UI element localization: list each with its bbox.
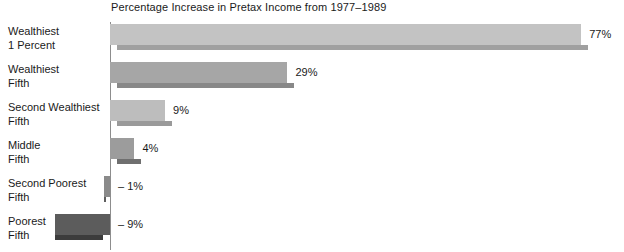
chart-bar-row: Second PoorestFifth– 1% <box>0 174 624 212</box>
plot-area: Wealthiest1 Percent77%WealthiestFifth29%… <box>0 20 624 252</box>
bar-shadow-face <box>117 159 141 164</box>
bar-fill <box>104 176 110 197</box>
bar-fill <box>110 100 165 121</box>
chart-bar[interactable] <box>110 62 287 88</box>
bar-chart: Percentage Increase in Pretax Income fro… <box>0 0 624 252</box>
bar-value-label: 29% <box>295 66 317 79</box>
category-label-line2: Fifth <box>8 77 106 91</box>
bar-shadow-face <box>55 235 103 240</box>
chart-bar-row: MiddleFifth4% <box>0 136 624 174</box>
bar-fill <box>110 138 134 159</box>
chart-bar-row: WealthiestFifth29% <box>0 60 624 98</box>
chart-bar[interactable] <box>55 214 110 240</box>
bar-value-label: – 9% <box>118 218 143 231</box>
bar-fill <box>55 214 110 235</box>
chart-bar[interactable] <box>110 24 581 50</box>
category-label: MiddleFifth <box>8 139 106 166</box>
category-label-line1: Middle <box>8 139 40 151</box>
chart-bar-row: Second WealthiestFifth9% <box>0 98 624 136</box>
bar-shadow-face <box>117 45 588 50</box>
chart-title: Percentage Increase in Pretax Income fro… <box>111 1 386 14</box>
bar-shadow-face <box>117 121 172 126</box>
category-label-line1: Second Wealthiest <box>8 101 100 113</box>
category-label-line1: Wealthiest <box>8 63 59 75</box>
category-label-line2: 1 Percent <box>8 39 106 53</box>
chart-bar-row: PoorestFifth– 9% <box>0 212 624 250</box>
bar-value-label: – 1% <box>118 180 143 193</box>
category-label: Second WealthiestFifth <box>8 101 106 128</box>
chart-bar[interactable] <box>110 100 165 126</box>
bar-value-label: 77% <box>589 28 611 41</box>
category-label-line1: Poorest <box>8 215 46 227</box>
chart-bar[interactable] <box>104 176 110 202</box>
category-label: Second PoorestFifth <box>8 177 106 204</box>
category-label: WealthiestFifth <box>8 63 106 90</box>
chart-bar-row: Wealthiest1 Percent77% <box>0 22 624 60</box>
bar-shadow-face <box>104 197 106 202</box>
bar-shadow-face <box>117 83 294 88</box>
category-label-line2: Fifth <box>8 191 106 205</box>
category-label-line1: Wealthiest <box>8 25 59 37</box>
bar-value-label: 4% <box>142 142 158 155</box>
category-label-line2: Fifth <box>8 153 106 167</box>
chart-bar[interactable] <box>110 138 134 164</box>
bar-fill <box>110 24 581 45</box>
bar-value-label: 9% <box>173 104 189 117</box>
category-label-line1: Second Poorest <box>8 177 86 189</box>
category-label-line2: Fifth <box>8 115 106 129</box>
category-label: Wealthiest1 Percent <box>8 25 106 52</box>
bar-fill <box>110 62 287 83</box>
